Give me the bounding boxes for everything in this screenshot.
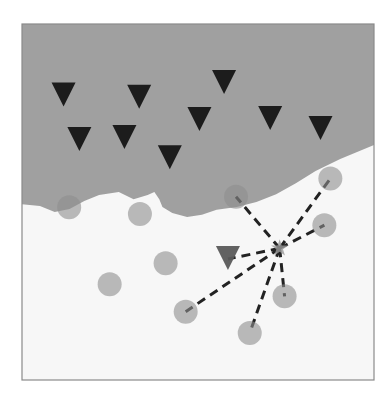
circle-marker [154, 251, 178, 275]
circle-marker [224, 185, 248, 209]
circle-marker [174, 300, 198, 324]
circle-marker [318, 167, 342, 191]
circle-marker [57, 195, 81, 219]
circle-marker [312, 213, 336, 237]
plot-canvas [0, 0, 389, 403]
circle-marker [238, 321, 262, 345]
circle-marker [273, 284, 297, 308]
circle-marker [128, 202, 152, 226]
circle-marker [98, 272, 122, 296]
knn-diagram [0, 0, 389, 403]
